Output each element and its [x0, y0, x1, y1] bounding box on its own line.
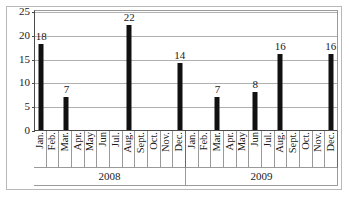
bar-value-label: 7 — [64, 84, 70, 95]
month-tick-cell: Mar. — [211, 131, 224, 168]
bar-slot — [299, 11, 312, 130]
month-tick-cell: Dec. — [173, 131, 186, 168]
y-tick-label-15: 15 — [19, 53, 30, 64]
y-tick-label-5: 5 — [25, 101, 31, 112]
bar-slot — [236, 11, 249, 130]
year-group-cell: 2008 — [34, 168, 186, 186]
bar-slot — [287, 11, 300, 130]
bar[interactable] — [39, 44, 44, 130]
month-label: Dec. — [174, 132, 185, 152]
bar-slot — [98, 11, 111, 130]
bar-value-label: 18 — [36, 31, 47, 42]
month-tick-cell: Jul. — [110, 131, 123, 168]
bar-slot — [161, 11, 174, 130]
month-label: Sept. — [136, 132, 147, 153]
bar-slot — [48, 11, 61, 130]
month-label: Oct. — [149, 132, 160, 150]
bars-layer: 1872214781616 — [35, 11, 337, 130]
bar-slot — [148, 11, 161, 130]
year-group-cell: 2009 — [186, 168, 338, 186]
bar-value-label: 7 — [215, 84, 221, 95]
month-tick-cell: Feb. — [199, 131, 212, 168]
month-label: Sept. — [288, 132, 299, 153]
y-axis-tick-labels: 0510152025 — [10, 10, 32, 131]
month-label: Jun — [98, 132, 109, 147]
bar-slot — [224, 11, 237, 130]
bar-value-label: 8 — [252, 79, 258, 90]
bar-slot — [199, 11, 212, 130]
bar-slot — [262, 11, 275, 130]
month-label: Oct. — [301, 132, 312, 150]
bar-slot: 16 — [324, 11, 337, 130]
bar-slot: 22 — [123, 11, 136, 130]
bar-slot: 7 — [211, 11, 224, 130]
month-label: Feb. — [47, 132, 58, 150]
month-label-row: Jan.Feb.Mar.Apr.MayJunJul.Aug.Sept.Oct.N… — [34, 131, 338, 168]
y-tick-label-0: 0 — [25, 125, 31, 136]
bar[interactable] — [215, 97, 220, 130]
bar[interactable] — [64, 97, 69, 130]
month-label: Jan. — [35, 132, 46, 149]
bar-slot: 7 — [60, 11, 73, 130]
month-tick-cell: Feb. — [47, 131, 60, 168]
month-tick-cell: Aug. — [123, 131, 136, 168]
month-tick-cell: Nov. — [313, 131, 326, 168]
month-tick-cell: Dec. — [325, 131, 338, 168]
month-tick-cell: Jun — [97, 131, 110, 168]
bar[interactable] — [278, 54, 283, 130]
y-tick-label-25: 25 — [19, 6, 30, 17]
month-label: Feb. — [199, 132, 210, 150]
bar-slot — [85, 11, 98, 130]
plot-wrapper: 0510152025 1872214781616 Jan.Feb.Mar.Apr… — [10, 10, 338, 186]
month-label: Aug. — [123, 132, 134, 153]
bar-slot — [111, 11, 124, 130]
month-tick-cell: Jan. — [186, 131, 199, 168]
bar[interactable] — [127, 25, 132, 130]
month-label: Nov. — [161, 132, 172, 152]
bar-slot — [186, 11, 199, 130]
month-tick-cell: Aug. — [275, 131, 288, 168]
month-tick-cell: May — [237, 131, 250, 168]
month-label: Mar. — [212, 132, 223, 152]
month-label: Jul. — [263, 132, 274, 147]
month-tick-cell: Nov. — [161, 131, 174, 168]
month-tick-cell: Jul. — [262, 131, 275, 168]
bar-slot — [73, 11, 86, 130]
month-tick-cell: Mar. — [59, 131, 72, 168]
bar-value-label: 16 — [325, 41, 336, 52]
x-axis: Jan.Feb.Mar.Apr.MayJunJul.Aug.Sept.Oct.N… — [34, 131, 338, 186]
bar-slot: 14 — [173, 11, 186, 130]
month-label: Jun — [250, 132, 261, 147]
y-tick-label-10: 10 — [19, 77, 30, 88]
month-tick-cell: May — [85, 131, 98, 168]
plot-area: 1872214781616 — [34, 10, 338, 131]
bar-slot — [136, 11, 149, 130]
month-label: Nov. — [313, 132, 324, 152]
month-tick-cell: Apr. — [72, 131, 85, 168]
bar[interactable] — [253, 92, 258, 130]
month-label: Apr. — [73, 132, 84, 150]
month-label: May — [237, 132, 248, 151]
bar[interactable] — [328, 54, 333, 130]
bar-value-label: 22 — [124, 12, 135, 23]
month-tick-cell: Jun — [249, 131, 262, 168]
month-tick-cell: Sept. — [287, 131, 300, 168]
bar-slot: 8 — [249, 11, 262, 130]
month-tick-cell: Oct. — [148, 131, 161, 168]
month-tick-cell: Sept. — [135, 131, 148, 168]
bar-slot — [312, 11, 325, 130]
bar-slot: 16 — [274, 11, 287, 130]
month-label: Jul. — [111, 132, 122, 147]
bar-value-label: 14 — [174, 50, 185, 61]
month-label: Dec. — [326, 132, 337, 152]
bar-value-label: 16 — [275, 41, 286, 52]
year-label: 2009 — [251, 171, 273, 182]
y-tick-label-20: 20 — [19, 29, 30, 40]
month-label: Mar. — [60, 132, 71, 152]
bar[interactable] — [177, 63, 182, 130]
month-label: Apr. — [225, 132, 236, 150]
bar-chart-figure: 0510152025 1872214781616 Jan.Feb.Mar.Apr… — [0, 0, 349, 197]
year-label: 2008 — [99, 171, 121, 182]
month-tick-cell: Apr. — [224, 131, 237, 168]
month-tick-cell: Jan. — [34, 131, 47, 168]
